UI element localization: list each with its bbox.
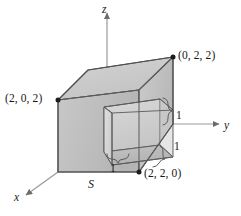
vertex-label-0-2-2: (0, 2, 2)	[178, 50, 215, 62]
y-axis-label: y	[224, 120, 229, 132]
z-axis-label: z	[102, 4, 106, 16]
surface-label-s: S	[88, 178, 94, 190]
figure-container: (0, 2, 2) (2, 0, 2) (2, 2, 0) z y x S 1 …	[0, 0, 241, 216]
solid-diagram-svg	[0, 0, 241, 216]
x-axis-label: x	[14, 192, 19, 204]
dimension-label-notch-height: 1	[176, 110, 182, 122]
dimension-label-notch-width: 1	[110, 163, 116, 175]
vertex-dot-0-2-2	[171, 55, 176, 60]
dimension-label-notch-depth: 1	[174, 141, 180, 153]
solid-body	[58, 57, 173, 172]
vertex-dot-2-0-2	[56, 98, 61, 103]
x-axis-line	[26, 172, 58, 195]
vertex-label-2-2-0: (2, 2, 0)	[144, 168, 181, 180]
vertex-dot-2-2-0	[137, 170, 142, 175]
vertex-label-2-0-2: (2, 0, 2)	[5, 93, 42, 105]
